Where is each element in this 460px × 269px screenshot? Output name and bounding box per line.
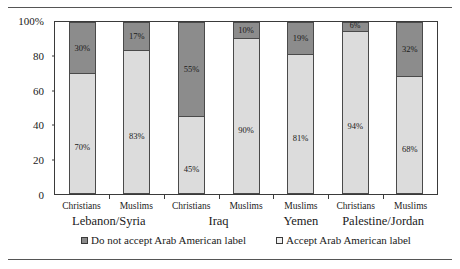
bar-slot: 55%45% [164,22,219,194]
bar-segment-value-label: 90% [238,126,254,135]
y-axis-tick-label: 60 [33,85,44,97]
bar-slot: 6%94% [328,22,383,194]
y-axis-tick-label: 40 [33,119,44,131]
bar-segment-accept[interactable]: 94% [342,32,369,194]
bar-segment-accept[interactable]: 83% [123,51,150,194]
bar-slot: 17%83% [110,22,165,194]
x-axis-tick-mark [164,195,165,199]
group-label: Lebanon/Syria [72,214,146,229]
group-label: Yemen [283,214,318,229]
legend-item[interactable]: Accept Arab American label [276,234,411,246]
bar-slot: 30%70% [55,22,110,194]
category-label: Muslims [273,201,328,211]
bar-segment-accept[interactable]: 68% [396,77,423,194]
stacked-bar[interactable]: 6%94% [342,22,369,194]
group-label: Palestine/Jordan [342,214,424,229]
bar-segment-value-label: 70% [74,143,90,152]
legend-label: Do not accept Arab American label [91,234,246,246]
stacked-bar[interactable]: 32%68% [396,22,423,194]
legend-swatch-icon [81,237,88,244]
bar-segment-value-label: 68% [402,145,418,154]
category-label: Christians [328,201,383,211]
y-axis-tick-label: 0 [39,189,45,201]
bar-segment-value-label: 45% [184,165,200,174]
bar-segment-do-not-accept[interactable]: 32% [396,22,423,77]
legend-swatch-icon [276,237,283,244]
bar-slot: 19%81% [273,22,328,194]
bar-segment-accept[interactable]: 45% [178,117,205,194]
bar-slot: 10%90% [219,22,274,194]
bar-segment-value-label: 6% [350,22,361,30]
top-divider-rule [8,7,452,8]
bar-segment-value-label: 81% [293,134,309,143]
bar-segment-value-label: 30% [74,44,90,53]
stacked-bar[interactable]: 19%81% [287,22,314,194]
bar-segment-value-label: 17% [129,32,145,41]
bar-segment-do-not-accept[interactable]: 19% [287,22,314,55]
x-axis-tick-mark [219,195,220,199]
category-label: Muslims [219,201,274,211]
x-axis-ticks [54,195,438,200]
stacked-bar[interactable]: 30%70% [69,22,96,194]
bar-slot: 32%68% [382,22,437,194]
stacked-bar[interactable]: 10%90% [233,22,260,194]
x-axis-tick-mark [109,195,110,199]
y-axis-tick-label: 20 [33,154,44,166]
bar-segment-do-not-accept[interactable]: 30% [69,22,96,74]
bar-segment-value-label: 32% [402,45,418,54]
group-labels: Lebanon/SyriaIraqYemenPalestine/Jordan [54,214,438,230]
category-label: Christians [54,201,109,211]
bar-segment-accept[interactable]: 81% [287,55,314,194]
legend-label: Accept Arab American label [286,234,411,246]
bar-segment-accept[interactable]: 90% [233,39,260,194]
y-axis: 100%806040200 [0,21,52,195]
stacked-bar[interactable]: 17%83% [123,22,150,194]
bar-segment-value-label: 83% [129,132,145,141]
bar-segment-value-label: 10% [238,26,254,35]
chart-legend: Do not accept Arab American labelAccept … [54,234,438,246]
category-label: Muslims [383,201,438,211]
bar-segment-do-not-accept[interactable]: 17% [123,22,150,51]
bar-segment-value-label: 55% [184,65,200,74]
plot-area: 30%70%17%83%55%45%10%90%19%81%6%94%32%68… [54,21,438,195]
bar-segment-do-not-accept[interactable]: 10% [233,22,260,39]
bar-segment-value-label: 19% [293,34,309,43]
y-axis-tick-label: 100% [18,15,44,27]
y-axis-tick-label: 80 [33,50,44,62]
bar-segment-value-label: 94% [347,122,363,131]
bars-layer: 30%70%17%83%55%45%10%90%19%81%6%94%32%68… [55,22,437,194]
x-axis-tick-mark [328,195,329,199]
bar-segment-accept[interactable]: 70% [69,74,96,194]
x-axis-tick-mark [273,195,274,199]
group-label: Iraq [209,214,229,229]
bar-segment-do-not-accept[interactable]: 6% [342,22,369,32]
legend-item[interactable]: Do not accept Arab American label [81,234,246,246]
bottom-divider-rule [8,259,452,260]
x-axis-tick-mark [383,195,384,199]
stacked-bar[interactable]: 55%45% [178,22,205,194]
category-label: Christians [164,201,219,211]
category-labels: ChristiansMuslimsChristiansMuslimsMuslim… [54,201,438,211]
category-label: Muslims [109,201,164,211]
bar-segment-do-not-accept[interactable]: 55% [178,22,205,117]
